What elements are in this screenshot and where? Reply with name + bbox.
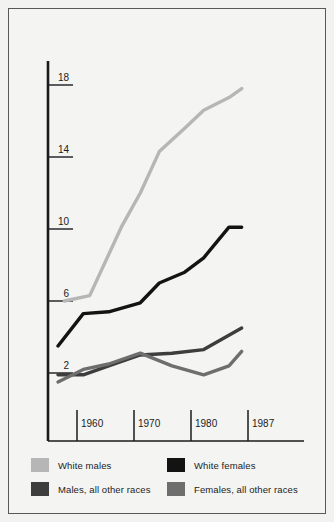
y-tick-label-6: 6	[63, 288, 69, 299]
legend-row-2: Males, all other races Females, all othe…	[31, 477, 311, 501]
legend-item-females-all-other-races: Females, all other races	[167, 482, 311, 496]
legend-label-white-males: White males	[58, 460, 111, 471]
legend-row-1: White males White females	[31, 453, 311, 477]
chart-frame: 18 14 10 6 2 1960 1970 1980 1987	[8, 8, 326, 514]
legend-swatch-females-all-other-races	[167, 482, 185, 496]
chart-page: 18 14 10 6 2 1960 1970 1980 1987	[0, 0, 334, 522]
y-tick-label-14: 14	[58, 144, 70, 155]
legend-label-white-females: White females	[194, 460, 256, 471]
x-tick-label-1987: 1987	[252, 418, 275, 429]
series-line-white-males	[64, 89, 241, 301]
legend-label-males-all-other-races: Males, all other races	[58, 484, 151, 495]
legend-item-white-males: White males	[31, 458, 167, 472]
series-lines	[58, 89, 242, 382]
legend-swatch-white-males	[31, 458, 49, 472]
plot-area: 18 14 10 6 2 1960 1970 1980 1987	[9, 9, 327, 515]
y-tick-label-10: 10	[58, 216, 70, 227]
legend-swatch-males-all-other-races	[31, 482, 49, 496]
chart-legend: White males White females Males, all oth…	[31, 453, 311, 501]
y-tick-label-2: 2	[63, 360, 69, 371]
line-chart-svg: 18 14 10 6 2 1960 1970 1980 1987	[9, 9, 327, 515]
legend-swatch-white-females	[167, 458, 185, 472]
y-tick-label-18: 18	[58, 72, 70, 83]
legend-label-females-all-other-races: Females, all other races	[194, 484, 298, 495]
series-line-white-females	[58, 227, 242, 346]
legend-item-white-females: White females	[167, 458, 311, 472]
series-line-females-all-other-races	[58, 351, 242, 382]
x-tick-label-1960: 1960	[81, 418, 104, 429]
x-tick-label-1980: 1980	[195, 418, 218, 429]
legend-item-males-all-other-races: Males, all other races	[31, 482, 167, 496]
x-tick-label-1970: 1970	[138, 418, 161, 429]
